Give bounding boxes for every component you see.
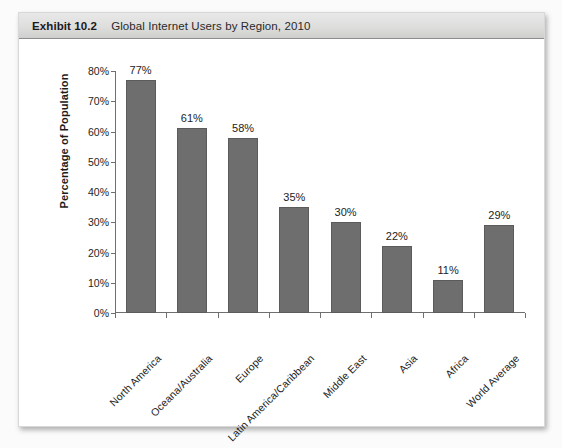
x-category-label: North America — [107, 352, 163, 408]
exhibit-number: Exhibit 10.2 — [32, 20, 97, 32]
y-tick-label: 0% — [71, 307, 109, 319]
exhibit-title: Global Internet Users by Region, 2010 — [111, 20, 310, 32]
y-tick-label: 20% — [71, 247, 109, 259]
y-tick-label: 10% — [71, 277, 109, 289]
y-tick-label: 60% — [71, 126, 109, 138]
x-axis-category-labels: North AmericaOceana/AustraliaEuropeLatin… — [115, 71, 525, 401]
y-tick-label: 80% — [71, 65, 109, 77]
x-category-label: Africa — [443, 352, 471, 380]
x-category-label: Middle East — [320, 352, 368, 400]
x-category-label: World Average — [464, 352, 522, 410]
x-category-label: Asia — [396, 352, 419, 375]
exhibit-header: Exhibit 10.2 Global Internet Users by Re… — [19, 13, 544, 39]
y-tick-label: 40% — [71, 186, 109, 198]
y-axis-tick-labels: 0%10%20%30%40%50%60%70%80% — [69, 40, 109, 426]
x-category-label: Latin America/Caribbean — [225, 352, 316, 443]
y-tick-label: 30% — [71, 216, 109, 228]
y-tick-label: 50% — [71, 156, 109, 168]
x-category-label: Europe — [233, 352, 266, 385]
exhibit-card: Exhibit 10.2 Global Internet Users by Re… — [18, 12, 545, 427]
x-tick-mark — [525, 313, 526, 318]
y-tick-label: 70% — [71, 95, 109, 107]
bar-chart: Percentage of Population 0%10%20%30%40%5… — [19, 40, 544, 426]
